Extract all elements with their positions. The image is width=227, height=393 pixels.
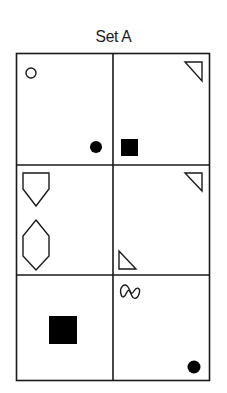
filled-circle-icon: [90, 141, 102, 153]
cell-r1-c2: [121, 62, 202, 156]
outline-circle-icon: [26, 68, 36, 78]
cell-r1-c1: [26, 68, 102, 153]
right-triangle-icon: [185, 173, 202, 191]
cell-r3-c1: [49, 316, 77, 344]
hexagon-icon: [23, 220, 49, 270]
filled-circle-icon: [188, 361, 201, 374]
right-triangle-icon: [185, 62, 202, 81]
squiggle-icon: [121, 285, 140, 298]
right-triangle-icon: [119, 251, 136, 269]
set-grid: [0, 0, 227, 393]
filled-square-icon: [121, 139, 138, 156]
filled-square-icon: [49, 316, 77, 344]
pentagon-icon: [23, 173, 49, 206]
cell-r2-c1: [23, 173, 49, 270]
cell-r2-c2: [119, 173, 202, 269]
cell-r3-c2: [121, 285, 201, 374]
